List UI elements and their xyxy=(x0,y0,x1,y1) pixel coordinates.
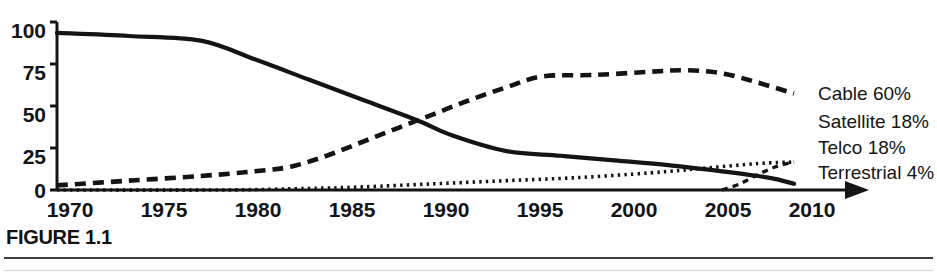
figure-caption-block: FIGURE 1.1 xyxy=(0,222,937,275)
x-tick-label-2005: 2005 xyxy=(705,198,752,221)
x-tick-label-1980: 1980 xyxy=(235,198,282,221)
figure-container: 100 75 50 25 0 1970 1975 1980 1985 1990 … xyxy=(0,0,937,275)
series-label-telco: Telco 18% xyxy=(818,137,906,158)
series-line-terrestrial xyxy=(57,33,794,184)
series-line-telco xyxy=(722,162,794,190)
figure-caption-label: FIGURE 1.1 xyxy=(6,226,112,249)
caption-divider-rule-secondary xyxy=(4,270,933,271)
series-label-terrestrial: Terrestrial 4% xyxy=(818,162,934,183)
x-tick-labels: 1970 1975 1980 1985 1990 1995 2000 2005 … xyxy=(47,198,836,221)
line-chart: 100 75 50 25 0 1970 1975 1980 1985 1990 … xyxy=(0,0,937,222)
y-tick-label-100: 100 xyxy=(11,19,46,42)
series-label-cable: Cable 60% xyxy=(818,83,911,104)
x-tick-label-1970: 1970 xyxy=(47,198,94,221)
x-tick-label-1985: 1985 xyxy=(329,198,376,221)
y-tick-label-75: 75 xyxy=(23,61,47,84)
y-tick-label-25: 25 xyxy=(23,145,47,168)
series-label-satellite: Satellite 18% xyxy=(818,111,929,132)
chart-area: 100 75 50 25 0 1970 1975 1980 1985 1990 … xyxy=(0,0,937,222)
series-labels: Cable 60% Satellite 18% Telco 18% Terres… xyxy=(818,83,934,183)
x-tick-label-2010: 2010 xyxy=(789,198,836,221)
x-tick-label-1990: 1990 xyxy=(423,198,470,221)
x-tick-label-2000: 2000 xyxy=(611,198,658,221)
x-tick-label-1975: 1975 xyxy=(141,198,188,221)
x-tick-label-1995: 1995 xyxy=(517,198,564,221)
y-tick-label-50: 50 xyxy=(23,103,46,126)
y-tick-labels: 100 75 50 25 0 xyxy=(11,19,46,202)
y-tick-label-0: 0 xyxy=(34,179,46,202)
caption-divider-rule xyxy=(4,257,933,259)
x-axis-arrow-icon xyxy=(845,181,869,199)
series-paths xyxy=(57,33,794,190)
